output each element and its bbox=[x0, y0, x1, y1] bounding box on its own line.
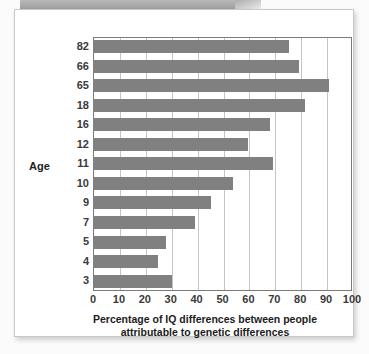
y-tick-10: 10 bbox=[55, 174, 89, 194]
bar-row bbox=[93, 154, 352, 174]
bar-row bbox=[93, 213, 352, 233]
y-tick-11: 11 bbox=[55, 154, 89, 174]
bar-age-9 bbox=[93, 196, 211, 209]
x-axis-tick-labels: 0102030405060708090100 bbox=[93, 293, 352, 309]
x-tick-60: 60 bbox=[242, 293, 254, 305]
y-tick-18: 18 bbox=[55, 96, 89, 116]
bar-row bbox=[93, 96, 352, 116]
x-tick-50: 50 bbox=[216, 293, 228, 305]
x-axis-title: Percentage of IQ differences between peo… bbox=[55, 313, 355, 339]
bar-age-11 bbox=[93, 157, 273, 170]
bar-age-3 bbox=[93, 275, 172, 288]
top-banner-corner-fold bbox=[235, 0, 261, 9]
bar-age-7 bbox=[93, 216, 195, 229]
y-tick-9: 9 bbox=[55, 193, 89, 213]
bar-row bbox=[93, 193, 352, 213]
bar-row bbox=[93, 252, 352, 272]
y-tick-7: 7 bbox=[55, 213, 89, 233]
x-axis-title-line-2: attributable to genetic differences bbox=[55, 326, 355, 339]
x-tick-90: 90 bbox=[320, 293, 332, 305]
x-tick-30: 30 bbox=[165, 293, 177, 305]
bar-row bbox=[93, 115, 352, 135]
chart-page: Age 826665181612111097543 01020304050607… bbox=[0, 0, 369, 354]
bar-age-12 bbox=[93, 138, 248, 151]
x-tick-20: 20 bbox=[139, 293, 151, 305]
bar-row bbox=[93, 76, 352, 96]
bar-row bbox=[93, 135, 352, 155]
bar-row bbox=[93, 37, 352, 57]
bar-series bbox=[93, 37, 352, 291]
y-tick-5: 5 bbox=[55, 232, 89, 252]
bar-row bbox=[93, 57, 352, 77]
bar-row bbox=[93, 271, 352, 291]
x-axis-title-line-1: Percentage of IQ differences between peo… bbox=[55, 313, 355, 326]
bar-row bbox=[93, 174, 352, 194]
x-tick-70: 70 bbox=[268, 293, 280, 305]
y-axis-title: Age bbox=[29, 160, 50, 172]
chart-card: Age 826665181612111097543 01020304050607… bbox=[14, 9, 354, 337]
x-tick-80: 80 bbox=[294, 293, 306, 305]
y-tick-12: 12 bbox=[55, 135, 89, 155]
bar-age-16 bbox=[93, 118, 270, 131]
bar-age-66 bbox=[93, 60, 299, 73]
bar-row bbox=[93, 232, 352, 252]
y-tick-65: 65 bbox=[55, 76, 89, 96]
y-axis-tick-labels: 826665181612111097543 bbox=[55, 37, 89, 291]
y-tick-4: 4 bbox=[55, 252, 89, 272]
bar-age-82 bbox=[93, 40, 289, 53]
top-banner-strip bbox=[20, 0, 235, 9]
x-tick-40: 40 bbox=[190, 293, 202, 305]
y-tick-66: 66 bbox=[55, 57, 89, 77]
x-tick-10: 10 bbox=[113, 293, 125, 305]
bar-age-65 bbox=[93, 79, 329, 92]
bar-age-10 bbox=[93, 177, 233, 190]
x-tick-100: 100 bbox=[343, 293, 361, 305]
y-tick-16: 16 bbox=[55, 115, 89, 135]
bar-age-4 bbox=[93, 255, 158, 268]
y-tick-82: 82 bbox=[55, 37, 89, 57]
x-tick-0: 0 bbox=[90, 293, 96, 305]
bar-age-18 bbox=[93, 99, 305, 112]
bar-age-5 bbox=[93, 236, 166, 249]
y-tick-3: 3 bbox=[55, 271, 89, 291]
